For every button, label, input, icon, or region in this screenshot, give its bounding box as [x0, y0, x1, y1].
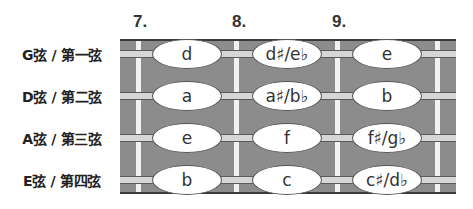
string-label-e: E弦 / 第四弦: [14, 170, 110, 190]
note-g-9: e: [352, 39, 422, 69]
note-d-7: a: [152, 81, 222, 111]
string-label-d: D弦 / 第二弦: [14, 86, 110, 106]
note-e-9: c♯/d♭: [352, 165, 422, 195]
note-e-7: b: [152, 165, 222, 195]
fret-line: [136, 41, 141, 192]
note-e-8: c: [252, 165, 322, 195]
fret-line: [234, 41, 239, 192]
string-label-a: A弦 / 第三弦: [14, 128, 110, 148]
fret-line: [435, 41, 440, 192]
note-d-9: b: [352, 81, 422, 111]
note-d-8: a♯/b♭: [252, 81, 322, 111]
fretboard: d d♯/e♭ e a a♯/b♭ b e f f♯/g♭ b c c♯/d♭: [120, 39, 456, 194]
string-label-g: G弦 / 第一弦: [14, 44, 110, 64]
note-g-8: d♯/e♭: [252, 39, 322, 69]
note-a-9: f♯/g♭: [352, 123, 422, 153]
note-a-8: f: [252, 123, 322, 153]
fret-line: [335, 41, 340, 192]
fret-number-8: 8.: [232, 12, 246, 32]
note-a-7: e: [152, 123, 222, 153]
fret-number-7: 7.: [133, 12, 147, 32]
fret-number-9: 9.: [332, 12, 346, 32]
note-g-7: d: [152, 39, 222, 69]
